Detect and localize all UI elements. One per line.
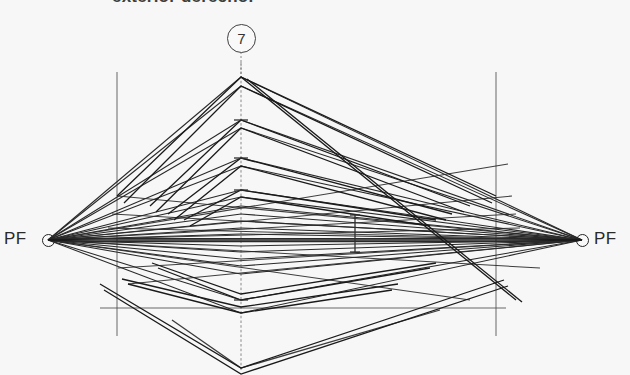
- perspective-line-art: [0, 0, 630, 375]
- drawing-canvas: exterior derecho. 7 PF PF: [0, 0, 630, 375]
- scan-grain: [0, 0, 630, 375]
